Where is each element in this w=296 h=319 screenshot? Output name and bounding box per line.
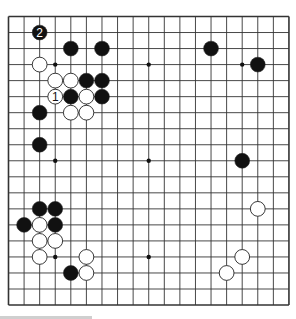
star-point (147, 62, 151, 66)
white-stone (219, 266, 234, 281)
white-stone (48, 73, 63, 88)
go-board-diagram: 21 (0, 0, 296, 319)
star-point (147, 255, 151, 259)
white-stone (79, 89, 94, 104)
black-stone (32, 137, 47, 152)
black-stone (235, 153, 250, 168)
black-stone (48, 217, 63, 232)
white-stone (79, 250, 94, 265)
star-point (53, 62, 57, 66)
black-stone (79, 73, 94, 88)
black-stone (250, 57, 265, 72)
white-stone: 1 (48, 89, 63, 104)
star-point (240, 62, 244, 66)
move-number-label: 1 (52, 90, 59, 104)
black-stone: 2 (32, 25, 47, 40)
star-point (53, 159, 57, 163)
black-stone (95, 89, 110, 104)
white-stone (32, 57, 47, 72)
star-point (147, 159, 151, 163)
white-stone (48, 234, 63, 249)
black-stone (48, 201, 63, 216)
white-stone (32, 250, 47, 265)
black-stone (32, 201, 47, 216)
star-point (53, 255, 57, 259)
move-number-label: 2 (36, 26, 43, 40)
black-stone (95, 73, 110, 88)
black-stone (63, 266, 78, 281)
white-stone (250, 201, 265, 216)
white-stone (235, 250, 250, 265)
black-stone (17, 217, 32, 232)
white-stone (32, 217, 47, 232)
black-stone (32, 105, 47, 120)
go-board: 21 (0, 0, 296, 319)
white-stone (63, 105, 78, 120)
white-stone (63, 73, 78, 88)
black-stone (95, 41, 110, 56)
black-stone (63, 89, 78, 104)
black-stone (204, 41, 219, 56)
white-stone (32, 234, 47, 249)
white-stone (79, 105, 94, 120)
white-stone (79, 266, 94, 281)
black-stone (63, 41, 78, 56)
